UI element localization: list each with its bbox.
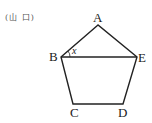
vertex-label-a: A	[93, 10, 103, 25]
vertex-label-b: B	[49, 49, 58, 64]
pentagon-figure: x A B E C D	[0, 0, 152, 123]
vertex-label-d: D	[118, 105, 127, 120]
vertex-label-c: C	[70, 105, 79, 120]
pentagon-outline	[61, 25, 137, 104]
angle-label-x: x	[71, 45, 77, 56]
vertex-label-e: E	[138, 50, 146, 65]
angle-arc-x	[68, 51, 70, 57]
